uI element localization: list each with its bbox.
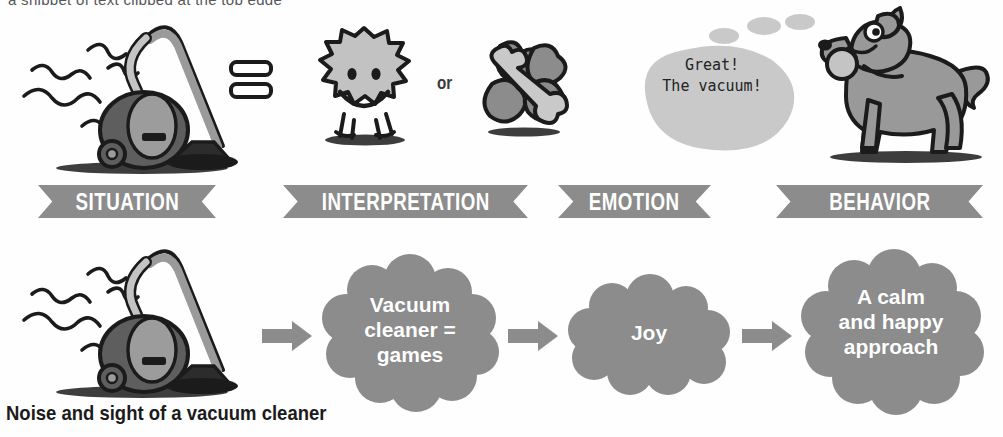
equals-sign-icon xyxy=(228,58,276,104)
thought-bubble-text: Great! The vacuum! xyxy=(651,55,773,97)
banner-situation[interactable]: SITUATION xyxy=(38,185,216,218)
clipped-top-text: a snippet of text clipped at the top edg… xyxy=(8,0,348,5)
banner-interpretation-label: INTERPRETATION xyxy=(321,185,489,218)
arrow-3-icon xyxy=(742,320,792,352)
banner-interpretation[interactable]: INTERPRETATION xyxy=(283,185,528,218)
or-label: or xyxy=(437,72,452,94)
dog-with-ball-icon xyxy=(806,2,1001,177)
behavior-cloud-label: A calm and happy approach xyxy=(798,284,984,359)
bottom-caption: Noise and sight of a vacuum cleaner xyxy=(6,401,326,425)
smiley-blob-icon xyxy=(300,22,430,152)
diagram-canvas: a snippet of text clipped at the top edg… xyxy=(0,0,1003,437)
emotion-cloud: Joy xyxy=(564,276,734,394)
interpretation-cloud-label: Vacuum cleaner = games xyxy=(320,292,500,367)
vacuum-cleaner-icon-top xyxy=(22,8,242,178)
banner-behavior-label: BEHAVIOR xyxy=(829,185,930,218)
arrow-1-icon xyxy=(262,320,312,352)
emotion-cloud-label: Joy xyxy=(564,320,734,345)
banner-emotion[interactable]: EMOTION xyxy=(558,185,711,218)
bone-and-clover-icon xyxy=(470,32,580,152)
arrow-2-icon xyxy=(508,320,558,352)
banner-emotion-label: EMOTION xyxy=(589,185,680,218)
banner-behavior[interactable]: BEHAVIOR xyxy=(776,185,983,218)
vacuum-cleaner-icon-bottom xyxy=(22,232,242,402)
behavior-cloud: A calm and happy approach xyxy=(798,250,984,410)
interpretation-cloud: Vacuum cleaner = games xyxy=(320,256,500,408)
banner-situation-label: SITUATION xyxy=(75,185,179,218)
